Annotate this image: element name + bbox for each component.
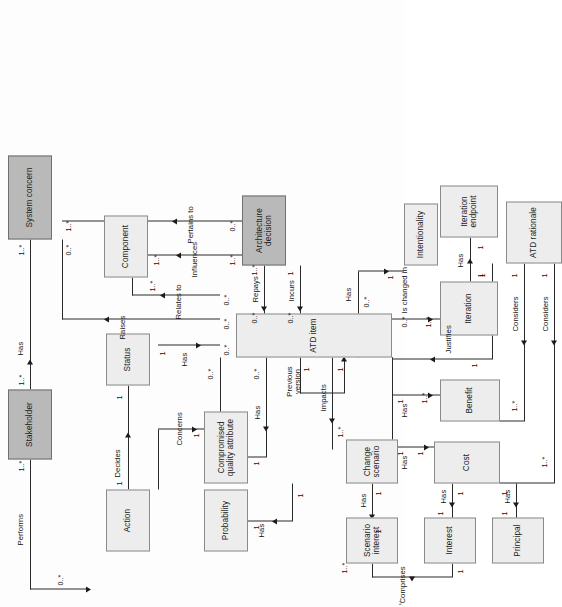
node-intentionality[interactable]: Intentionality xyxy=(404,203,438,265)
rel-label-has-iteration: Has xyxy=(456,253,465,267)
rel-label-has-concern: Has xyxy=(16,341,25,355)
node-iteration-label: Iteration xyxy=(464,293,473,323)
node-atd-item-label: ATD item xyxy=(309,318,318,352)
mult-prob-src: 1 xyxy=(252,525,261,529)
arrow-impacts xyxy=(329,418,335,423)
arrow-prin-cost xyxy=(513,502,519,507)
line-action-b xyxy=(158,429,159,489)
line-cons-cost xyxy=(554,263,555,483)
node-stakeholder-label: Stakeholder xyxy=(25,402,34,447)
mult-prev-src: 1 xyxy=(302,367,311,371)
mult-comprises-src: 1..* xyxy=(340,562,349,573)
node-atd-rationale[interactable]: ATD rationale xyxy=(506,201,562,263)
mult-cqa-has-dst: 0..* xyxy=(252,368,261,379)
node-probability[interactable]: Probability xyxy=(204,489,248,551)
rel-label-decides: Decides xyxy=(113,449,122,477)
page-marker: 2 xyxy=(399,600,402,606)
mult-atd-ben-src: 1 xyxy=(396,399,405,403)
mult-repays-src: 1..* xyxy=(250,264,259,275)
line-prev-h2 xyxy=(344,359,345,393)
line-raises-h xyxy=(62,239,63,319)
node-action[interactable]: Action xyxy=(106,489,150,551)
arrow-int-cost xyxy=(449,502,455,507)
arrow-cqa-has xyxy=(263,426,269,431)
arrow-comprises xyxy=(409,576,415,581)
mult-has-concern-src: 1..* xyxy=(17,374,26,385)
arrow-performs xyxy=(86,586,91,592)
node-cost-label: Cost xyxy=(462,453,471,470)
arrow-incurs xyxy=(297,306,303,311)
rel-label-has-cost: Has xyxy=(400,455,409,469)
mult-impacts-dst: 1 xyxy=(336,367,345,371)
rel-label-repays: Repays xyxy=(251,276,260,302)
rel-label-concerns: Concerns xyxy=(175,412,184,445)
line-pertains xyxy=(62,220,254,221)
arrow-raises xyxy=(104,316,109,322)
rel-label-has-status: Has xyxy=(180,352,189,366)
node-cost[interactable]: Cost xyxy=(434,441,500,483)
node-atd-item[interactable]: ATD item xyxy=(236,313,392,357)
mult-scen-src: 1 xyxy=(374,529,383,533)
node-compromised-quality-attribute[interactable]: Compromised quality attribute xyxy=(204,411,248,483)
node-scenario-interest[interactable]: Scenario interest xyxy=(346,517,398,563)
node-architecture-decision[interactable]: Architecture decision xyxy=(242,195,286,265)
mult-prin-cost-src: 1 xyxy=(500,511,509,515)
node-scenario-interest-label: Scenario interest xyxy=(363,519,381,561)
line-cons-cost-v xyxy=(500,482,554,483)
node-component[interactable]: Component xyxy=(104,215,148,277)
rel-label-is-changed-in: Is changed in xyxy=(400,267,409,313)
mult-concerns-src: 1 xyxy=(192,433,201,437)
node-change-scenario-label: Change scenario xyxy=(363,441,381,481)
node-interest[interactable]: Interest xyxy=(424,517,476,563)
mult-relates-src: 0..* xyxy=(222,294,231,305)
node-benefit[interactable]: Benefit xyxy=(440,379,500,421)
arrow-atd-cost xyxy=(424,444,429,450)
node-change-scenario[interactable]: Change scenario xyxy=(346,439,398,483)
mult-prob-dst: 1 xyxy=(296,493,305,497)
mult-prin-cost-dst: 1 xyxy=(500,491,509,495)
line-raises-v xyxy=(62,318,220,319)
node-status[interactable]: Status xyxy=(106,333,150,385)
node-principal[interactable]: Principal xyxy=(492,517,544,563)
rel-label-considers-benefit: Considers xyxy=(511,296,520,331)
rel-label-has-intent: Has xyxy=(344,287,353,301)
node-stakeholder[interactable]: Stakeholder xyxy=(8,389,52,459)
rel-label-impacts: Impacts xyxy=(319,384,328,411)
mult-incurs-src: 1 xyxy=(286,271,295,275)
mult-has-concern-dst: 1..* xyxy=(17,244,26,255)
line-prob-has-h xyxy=(292,483,293,521)
arrow-pertains xyxy=(172,218,177,224)
mult-cons-ben-dst: 1 xyxy=(510,273,519,277)
rel-label-pertains-to: Pertains to xyxy=(186,206,195,243)
mult-justifies-src: 1 xyxy=(470,363,479,367)
rel-label-performs: Performs xyxy=(16,513,25,545)
mult-decides-dst: 1 xyxy=(115,395,124,399)
line-has-concern xyxy=(30,239,31,389)
node-system-concern[interactable]: System concern xyxy=(8,155,52,239)
rel-label-has-cqa: Has xyxy=(253,405,262,419)
mult-scen-dst: 1 xyxy=(374,491,383,495)
mult-performs-src: 1..* xyxy=(17,460,26,471)
arrow-status-has xyxy=(196,342,201,348)
node-probability-label: Probability xyxy=(221,500,230,539)
arrow-cons-benefit xyxy=(521,340,527,345)
mult-relates-dst: 1..* xyxy=(148,280,157,291)
mult-pertains-src: 0..* xyxy=(228,220,237,231)
rel-label-incurs: Incurs xyxy=(287,280,296,301)
node-status-label: Status xyxy=(123,347,132,371)
line-justifies-v xyxy=(392,358,492,359)
mult-intent-dst: 1 xyxy=(386,275,395,279)
line-impacts xyxy=(332,357,333,449)
line-cqa-has-v xyxy=(248,456,266,457)
rel-label-justifies: Justifies xyxy=(444,325,453,353)
mult-atd-cost-src: 1 xyxy=(396,451,405,455)
node-compromised-quality-attribute-label: Compromised quality attribute xyxy=(217,413,235,481)
line-cqa-has-h xyxy=(266,357,267,457)
arrow-relates xyxy=(160,292,165,298)
mult-repays-dst: 0..* xyxy=(250,312,259,323)
node-iteration-endpoint[interactable]: Iteration endpoint xyxy=(440,185,498,237)
mult-influences-dst: 1..* xyxy=(228,254,237,265)
mult-status-src: 1 xyxy=(158,351,167,355)
node-interest-label: Interest xyxy=(445,526,454,554)
